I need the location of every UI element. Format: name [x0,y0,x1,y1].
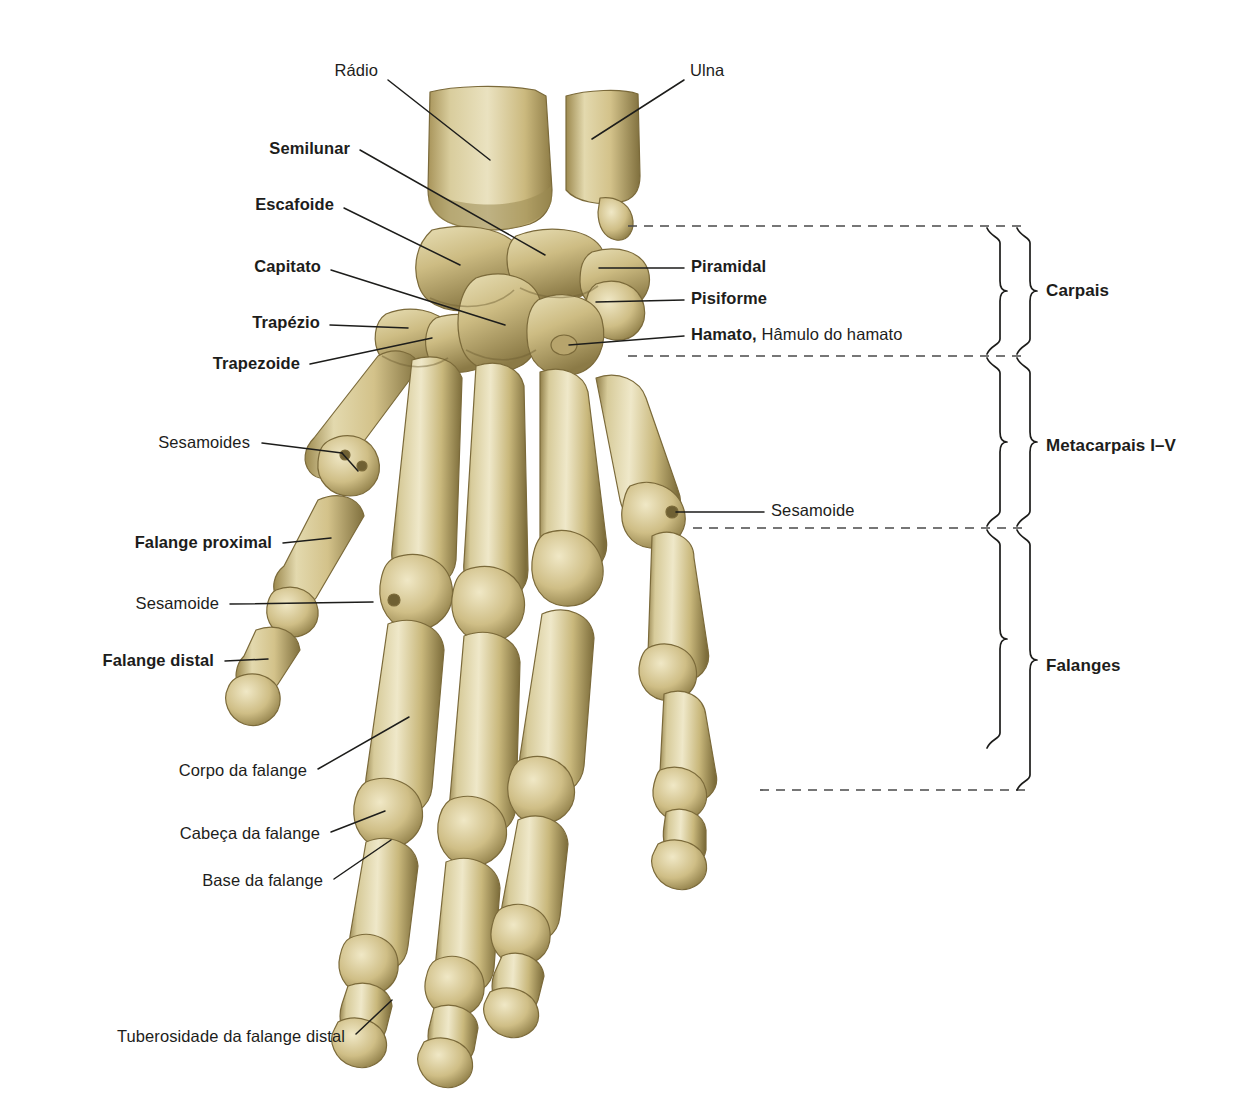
label-ulna: Ulna [690,61,724,79]
label-trapezoide: Trapezoide [213,354,300,372]
label-trapezio-text: Trapézio [252,313,320,331]
anatomy-figure: 388,80 490,160360,150 545,255344,208 460… [0,0,1252,1102]
bracket-falanges-outer [1017,530,1037,790]
label-sesamoides-text: Sesamoides [158,433,250,451]
label-escafoide-text: Escafoide [255,195,334,213]
label-sesamoide-esq: Sesamoide [136,594,219,612]
bracket-carpais-inner [987,228,1007,354]
bracket-falanges-inner [987,530,1007,748]
label-tuberosidade: Tuberosidade da falange distal [117,1027,345,1045]
label-escafoide: Escafoide [255,195,334,213]
label-falange-proximal: Falange proximal [135,533,272,551]
bracket-metacarpais-inner [987,358,1007,526]
label-radio: Rádio [334,61,378,79]
bracket-metacarpais-outer [1017,358,1037,526]
label-cabeca-falange: Cabeça da falange [180,824,320,842]
label-trapezio: Trapézio [252,313,320,331]
label-semilunar-text: Semilunar [269,139,350,157]
label-tuberosidade-text: Tuberosidade da falange distal [117,1027,345,1045]
metacarpal-3-head [452,566,525,642]
bones-group [226,86,717,1087]
label-sesamoide-esq-text: Sesamoide [136,594,219,612]
thumb-distal-tuberosity [226,674,280,725]
label-trapezoide-text: Trapezoide [213,354,300,372]
metacarpal-1-head [318,436,380,496]
label-falange-distal-text: Falange distal [103,651,214,669]
group-brackets [987,228,1037,790]
label-sesamoide-dir: Sesamoide [771,501,854,519]
label-piramidal: Piramidal [691,257,766,275]
label-sesamoides: Sesamoides [158,433,250,451]
label-pisiforme-text: Pisiforme [691,289,767,307]
label-hamato: Hamato, Hâmulo do hamato [691,325,903,343]
ulna-bone [566,90,640,203]
label-corpo-falange: Corpo da falange [179,761,307,779]
label-radio-text: Rádio [334,61,378,79]
label-base-falange: Base da falange [202,871,323,889]
sesamoid-thumb-a [340,450,350,460]
label-corpo-falange-text: Corpo da falange [179,761,307,779]
label-base-falange-text: Base da falange [202,871,323,889]
sesamoid-index [388,594,400,606]
leader-sesamoide-esq: 230,604 373,602 [230,602,373,604]
group-label-falanges: Falanges [1046,656,1121,676]
label-falange-distal: Falange distal [103,651,214,669]
label-cabeca-falange-text: Cabeça da falange [180,824,320,842]
bracket-carpais-outer [1017,228,1037,354]
label-hamato-subtext: Hâmulo do hamato [757,325,903,343]
label-sesamoide-dir-text: Sesamoide [771,501,854,519]
label-pisiforme: Pisiforme [691,289,767,307]
index-proximal-head [354,778,423,848]
group-label-metacarpais: Metacarpais I–V [1046,436,1176,456]
metacarpal-2 [392,357,462,589]
metacarpal-2-head [380,554,453,630]
middle-proximal-head [438,796,507,866]
ulna-styloid [598,198,633,241]
group-label-carpais: Carpais [1046,281,1109,301]
label-semilunar: Semilunar [269,139,350,157]
ring-proximal-head [508,756,575,824]
label-hamato-text: Hamato, [691,325,757,343]
label-piramidal-text: Piramidal [691,257,766,275]
label-capitato-text: Capitato [254,257,321,275]
label-capitato: Capitato [254,257,321,275]
metacarpal-3 [464,363,528,602]
label-falange-proximal-text: Falange proximal [135,533,272,551]
label-ulna-text: Ulna [690,61,724,79]
sesamoid-thumb-b [357,461,367,471]
